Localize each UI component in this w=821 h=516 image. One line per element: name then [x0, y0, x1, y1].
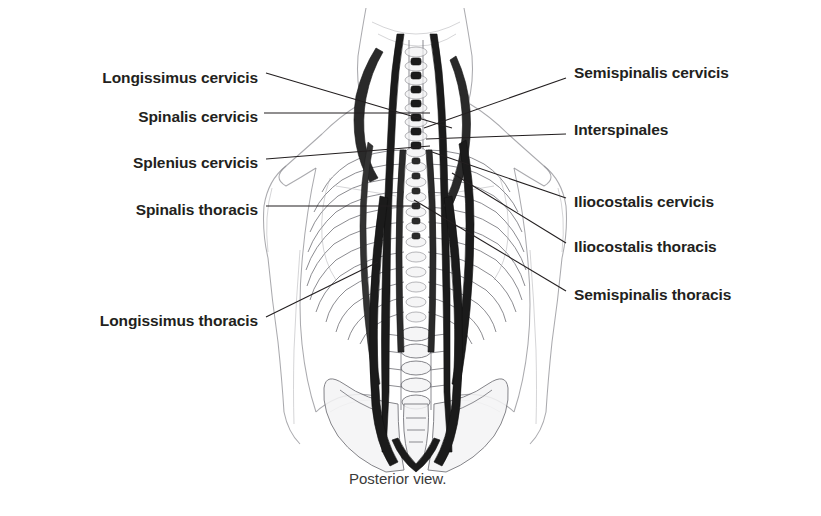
anatomy-figure: Longissimus cervicis Spinalis cervicis S… — [0, 0, 821, 516]
pelvis — [324, 379, 508, 472]
label-spinalis-cervicis[interactable]: Spinalis cervicis — [138, 109, 258, 125]
label-interspinales[interactable]: Interspinales — [574, 122, 668, 138]
label-longissimus-thoracis[interactable]: Longissimus thoracis — [100, 313, 258, 329]
label-longissimus-cervicis[interactable]: Longissimus cervicis — [102, 70, 258, 86]
label-semispinalis-cervicis[interactable]: Semispinalis cervicis — [574, 65, 729, 81]
label-iliocostalis-thoracis[interactable]: Iliocostalis thoracis — [574, 239, 717, 255]
label-iliocostalis-cervicis[interactable]: Iliocostalis cervicis — [574, 194, 714, 210]
label-semispinalis-thoracis[interactable]: Semispinalis thoracis — [574, 287, 731, 303]
label-spinalis-thoracis[interactable]: Spinalis thoracis — [136, 202, 258, 218]
label-splenius-cervicis[interactable]: Splenius cervicis — [133, 155, 258, 171]
lumbar-spine — [401, 327, 431, 410]
figure-caption: Posterior view. — [349, 471, 447, 486]
